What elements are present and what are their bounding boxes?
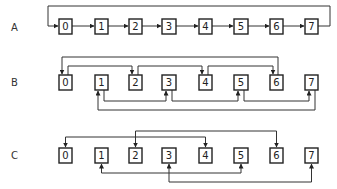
link-b-3-to-5 <box>172 90 238 101</box>
svg-text:5: 5 <box>238 77 244 88</box>
ring-topology-diagram: A 0 1 2 3 4 5 6 7 B 0 <box>0 0 337 189</box>
svg-text:2: 2 <box>132 21 138 32</box>
node-b-5: 5 <box>234 75 248 90</box>
link-b-0-to-2 <box>68 66 132 75</box>
svg-text:2: 2 <box>132 77 138 88</box>
svg-text:3: 3 <box>166 21 172 32</box>
row-label-b: B <box>11 77 18 88</box>
svg-text:0: 0 <box>62 77 68 88</box>
link-c-1-5 <box>102 164 242 173</box>
node-c-0: 0 <box>59 148 72 163</box>
link-b-7-to-1 <box>98 90 315 110</box>
svg-text:7: 7 <box>308 21 314 32</box>
svg-text:1: 1 <box>98 21 104 32</box>
svg-text:4: 4 <box>202 77 208 88</box>
row-label-c: C <box>11 150 18 161</box>
node-c-3: 3 <box>162 148 176 163</box>
svg-text:1: 1 <box>98 150 104 161</box>
link-b-1-to-3 <box>104 90 166 101</box>
node-a-3: 3 <box>162 19 176 34</box>
node-c-1: 1 <box>95 148 108 163</box>
svg-text:6: 6 <box>273 77 279 88</box>
svg-text:0: 0 <box>62 150 68 161</box>
row-a: A 0 1 2 3 4 5 6 7 <box>11 6 330 34</box>
svg-text:6: 6 <box>273 150 279 161</box>
svg-text:5: 5 <box>238 150 244 161</box>
row-b: B 0 1 2 3 4 5 6 7 <box>11 57 318 110</box>
node-b-7: 7 <box>305 75 318 90</box>
node-c-6: 6 <box>270 148 283 163</box>
node-b-4: 4 <box>199 75 212 90</box>
svg-text:7: 7 <box>308 77 314 88</box>
node-a-6: 6 <box>270 19 283 34</box>
link-b-5-to-7 <box>244 90 309 101</box>
node-a-0: 0 <box>59 19 72 34</box>
node-a-2: 2 <box>129 19 142 34</box>
link-a-7-to-0 <box>48 6 330 26</box>
svg-text:3: 3 <box>166 77 172 88</box>
link-b-2-to-4 <box>138 66 202 75</box>
node-a-5: 5 <box>234 19 248 34</box>
svg-text:4: 4 <box>202 21 208 32</box>
node-c-5: 5 <box>234 148 248 163</box>
node-b-6: 6 <box>270 75 283 90</box>
node-b-1: 1 <box>95 75 108 90</box>
node-a-7: 7 <box>305 19 318 34</box>
svg-text:7: 7 <box>308 150 314 161</box>
node-c-2: 2 <box>129 148 142 163</box>
node-b-3: 3 <box>162 75 176 90</box>
node-a-1: 1 <box>95 19 108 34</box>
svg-text:3: 3 <box>166 150 172 161</box>
row-c: C 0 1 2 3 4 5 6 7 <box>11 131 318 182</box>
svg-text:5: 5 <box>238 21 244 32</box>
node-b-0: 0 <box>59 75 72 90</box>
node-c-7: 7 <box>305 148 318 163</box>
svg-text:0: 0 <box>62 21 68 32</box>
svg-text:4: 4 <box>202 150 208 161</box>
node-c-4: 4 <box>199 148 212 163</box>
link-b-4-to-6 <box>208 66 273 75</box>
node-b-2: 2 <box>129 75 142 90</box>
node-a-4: 4 <box>199 19 212 34</box>
svg-text:1: 1 <box>98 77 104 88</box>
svg-text:6: 6 <box>273 21 279 32</box>
svg-text:2: 2 <box>132 150 138 161</box>
row-label-a: A <box>11 22 18 33</box>
